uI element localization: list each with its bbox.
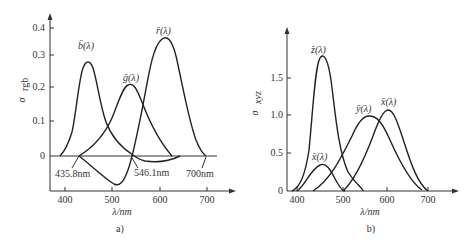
y-tick-a: 0	[40, 150, 45, 161]
curve-y-bar	[313, 116, 422, 191]
annotation-leader	[72, 156, 79, 168]
svg-text:xyz: xyz	[252, 91, 263, 105]
label-g-bar: ḡ(λ)	[123, 72, 140, 84]
y-tick-b: 1.5	[271, 72, 284, 83]
svg-text:σ: σ	[249, 109, 260, 115]
x-tick-b: 600	[380, 194, 395, 205]
annotation-435-8nm: 435.8nm	[55, 168, 91, 179]
y-tick-a: 0.4	[33, 22, 46, 33]
y-tick-b: 1.0	[271, 109, 284, 120]
x-tick-b: 400	[290, 194, 305, 205]
panel-a: 0.4 0.3 0.2 0.1 0 400 500 600 700 λ/nm σ…	[16, 13, 236, 235]
label-y-bar: ȳ(λ)	[355, 103, 372, 115]
x-tick-a: 700	[200, 194, 215, 205]
curve-z-bar	[292, 56, 363, 191]
x-tick-a: 600	[153, 194, 168, 205]
curve-x-bar-short	[297, 164, 345, 191]
annotation-leader	[202, 157, 206, 168]
x-axis-label-a: λ/nm	[111, 206, 131, 217]
svg-text:rgb: rgb	[19, 78, 30, 91]
y-axis-arrow-icon	[285, 27, 290, 34]
svg-text:σ: σ	[16, 96, 27, 102]
label-b-bar: b̄(λ)	[78, 40, 95, 52]
figure: 0.4 0.3 0.2 0.1 0 400 500 600 700 λ/nm σ…	[0, 0, 473, 246]
y-tick-a: 0.2	[33, 81, 46, 92]
y-tick-a: 0.1	[33, 115, 46, 126]
label-z-bar: z̄(λ)	[310, 44, 327, 56]
annotation-546-1nm: 546.1nm	[134, 167, 170, 178]
curve-r-bar	[79, 38, 206, 185]
curve-g-bar	[79, 84, 172, 156]
y-tick-b: 0.5	[271, 147, 284, 158]
panel-label-b: b)	[367, 223, 375, 235]
y-tick-b: 0	[278, 185, 283, 196]
x-tick-b: 700	[421, 194, 436, 205]
y-axis-arrow-icon	[48, 13, 53, 20]
curve-b-bar	[60, 62, 180, 162]
x-axis-arrow-icon	[229, 189, 236, 194]
panel-b: 1.5 1.0 0.5 0 400 500 600 700 λ/nm σ xyz…	[249, 27, 459, 235]
y-tick-a: 0.3	[33, 49, 46, 60]
y-axis-label-b: σ xyz	[249, 91, 263, 115]
label-x-bar-short: x̄(λ)	[311, 151, 328, 163]
x-tick-a: 400	[58, 194, 73, 205]
annotation-700nm: 700nm	[186, 168, 214, 179]
label-x-bar: x̄(λ)	[380, 96, 397, 108]
x-tick-b: 500	[336, 194, 351, 205]
x-axis-label-b: λ/nm	[359, 206, 379, 217]
y-axis-label-a: σ rgb	[16, 78, 30, 103]
panel-label-a: a)	[116, 223, 124, 235]
label-r-bar: r̄(λ)	[156, 25, 172, 37]
x-axis-arrow-icon	[452, 189, 459, 194]
x-tick-a: 500	[105, 194, 120, 205]
curve-x-bar	[343, 110, 428, 191]
